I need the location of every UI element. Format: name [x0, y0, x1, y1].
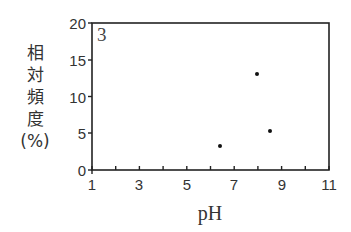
plot-area	[0, 0, 351, 232]
panel-label: 3	[97, 24, 107, 46]
data-point	[255, 72, 259, 76]
data-point	[218, 144, 222, 148]
plot-frame	[92, 23, 329, 170]
data-point	[268, 129, 272, 133]
data-points	[218, 72, 272, 148]
